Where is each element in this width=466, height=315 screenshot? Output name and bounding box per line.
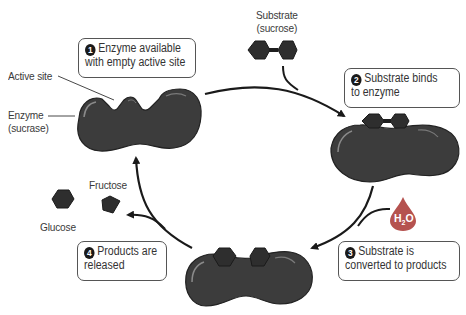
sucrose-molecule xyxy=(248,41,297,59)
active-site-label: Active site xyxy=(8,70,52,83)
enzyme-label: Enzyme (sucrase) xyxy=(8,109,49,135)
enzyme-products xyxy=(186,248,313,306)
arrow-step1-to-step2 xyxy=(205,87,344,116)
step-2-box: 2Substrate binds to enzyme xyxy=(344,68,460,108)
enzyme-cycle-diagram: H2O Active site Enzyme (sucrase) Substra… xyxy=(0,0,466,315)
step-3-box: 3Substrate is converted to products xyxy=(338,241,460,281)
glucose-label: Glucose xyxy=(40,221,76,234)
water-label: H2O xyxy=(394,212,414,229)
glucose-molecule xyxy=(52,190,74,208)
arrow-step3-to-step4 xyxy=(136,158,192,248)
step-1-box: 1Enzyme available with empty active site xyxy=(78,38,196,78)
step-4-box: 4Products are released xyxy=(77,241,167,281)
fructose-label: Fructose xyxy=(89,179,127,192)
fructose-molecule xyxy=(102,196,120,213)
enzyme-substrate-bound xyxy=(331,114,459,182)
arrow-step2-to-step3 xyxy=(312,186,373,248)
enzyme-empty xyxy=(78,89,201,151)
substrate-label: Substrate (sucrose) xyxy=(256,9,298,35)
